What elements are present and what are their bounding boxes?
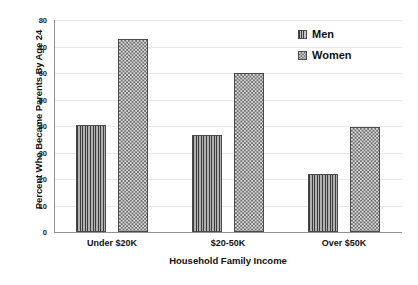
y-axis-tick-label: 40: [39, 122, 47, 131]
gridline: 0: [54, 232, 402, 233]
y-axis-tick-label: 20: [39, 175, 47, 184]
legend-item-men: Men: [298, 28, 352, 40]
x-axis-tick-label: Under $20K: [87, 238, 137, 248]
y-axis-tick-label: 0: [43, 228, 47, 237]
y-axis-tick-label: 30: [39, 148, 47, 157]
bar-men-0: [76, 125, 106, 232]
x-axis-title: Household Family Income: [54, 255, 402, 266]
y-axis-tick-label: 60: [39, 69, 47, 78]
legend-swatch-men-icon: [298, 30, 307, 39]
x-axis-tick-labels: Under $20K$20-50KOver $50K: [54, 238, 402, 254]
y-axis-tick-label: 70: [39, 42, 47, 51]
legend-item-women: Women: [298, 49, 352, 61]
x-axis-tick-label: $20-50K: [211, 238, 246, 248]
bar-chart: Percent Who Became Parents By Age 24 010…: [0, 0, 418, 285]
bar-women-2: [350, 127, 380, 232]
y-axis-tick-label: 80: [39, 16, 47, 25]
legend-label-men: Men: [312, 28, 334, 40]
legend-label-women: Women: [312, 49, 352, 61]
bar-men-1: [192, 135, 222, 232]
y-axis-tick-label: 50: [39, 95, 47, 104]
legend-swatch-women-icon: [298, 51, 307, 60]
bar-women-0: [118, 39, 148, 232]
bar-women-1: [234, 73, 264, 232]
legend: Men Women: [298, 28, 352, 61]
y-axis-tick-label: 10: [39, 201, 47, 210]
bar-men-2: [308, 174, 338, 232]
bar-group: [170, 20, 286, 232]
bar-group: [54, 20, 170, 232]
x-axis-tick-label: Over $50K: [322, 238, 367, 248]
